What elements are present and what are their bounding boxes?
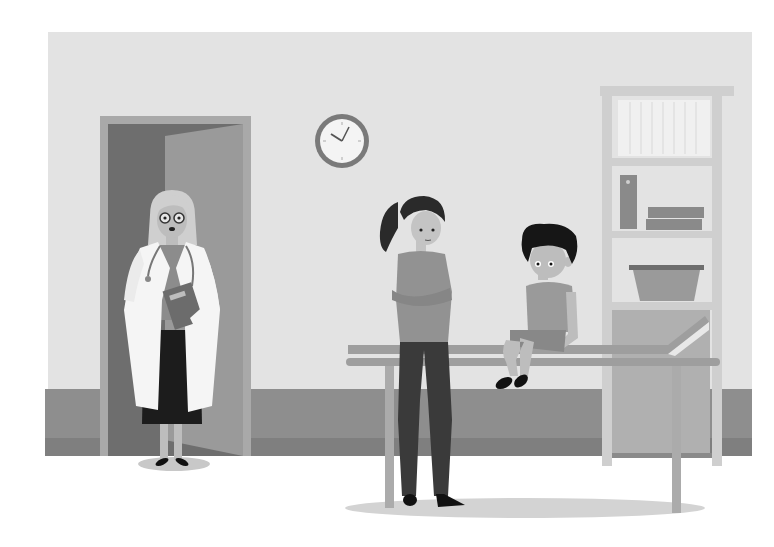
table-shadow [345, 498, 705, 518]
tray-rim [629, 265, 704, 270]
doctor-eye-left [163, 216, 166, 219]
tray-basin [633, 270, 700, 301]
stethoscope-chestpiece [145, 276, 151, 282]
mother-eye-right [431, 228, 434, 231]
cabinet-base [612, 453, 712, 458]
shelf-post-left [602, 94, 612, 466]
wall-clock [315, 114, 369, 168]
scene-canvas [0, 0, 774, 547]
folder-bottom [646, 219, 702, 230]
doctor-leg-left [160, 424, 168, 460]
shelf-board-2 [610, 231, 714, 238]
mother-shoe-left [403, 494, 417, 506]
boy-pupil-right [550, 263, 553, 266]
doctor-mouth [169, 227, 175, 231]
shelf-post-right [712, 94, 722, 466]
mother-eye-left [419, 228, 422, 231]
boy-pupil-left [537, 263, 540, 266]
mother-mouth [425, 240, 431, 241]
shelf-board-3 [610, 302, 714, 310]
table-leg-right [672, 358, 681, 513]
folder-top [648, 207, 704, 218]
doctor-leg-right [174, 424, 182, 460]
exam-room-illustration [0, 0, 774, 547]
doctor-eye-right [177, 216, 180, 219]
binder-ring [626, 180, 630, 184]
shelf-board-1 [610, 158, 714, 166]
table-leg-left [385, 358, 394, 508]
